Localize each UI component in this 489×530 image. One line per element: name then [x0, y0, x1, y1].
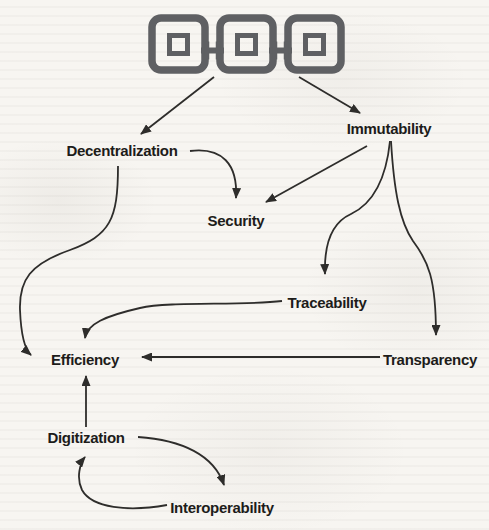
node-digitization: Digitization — [47, 429, 124, 446]
arrow-immutability-to-transparency — [391, 141, 436, 335]
diagram-arrows-layer — [0, 0, 489, 530]
arrow-blockchain-to-decentralization — [141, 77, 214, 134]
node-interoperability: Interoperability — [170, 499, 274, 516]
blockchain-icon — [152, 18, 341, 70]
arrow-decentralization-to-efficiency — [20, 166, 118, 355]
arrow-decentralization-to-security — [190, 150, 236, 198]
arrow-blockchain-to-immutability — [299, 77, 360, 113]
node-transparency: Transparency — [383, 351, 477, 368]
node-security: Security — [208, 212, 265, 229]
arrow-traceability-to-efficiency — [85, 301, 282, 338]
arrow-interoperability-to-digitization — [79, 457, 167, 508]
arrow-immutability-to-traceability — [325, 141, 390, 274]
figure-canvas: Decentralization Immutability Security T… — [0, 0, 489, 530]
node-decentralization: Decentralization — [66, 142, 177, 159]
arrow-digitization-to-interoperability — [138, 437, 224, 485]
node-efficiency: Efficiency — [51, 351, 119, 368]
node-traceability: Traceability — [288, 294, 367, 311]
arrow-immutability-to-security — [266, 146, 367, 202]
node-immutability: Immutability — [347, 120, 432, 137]
